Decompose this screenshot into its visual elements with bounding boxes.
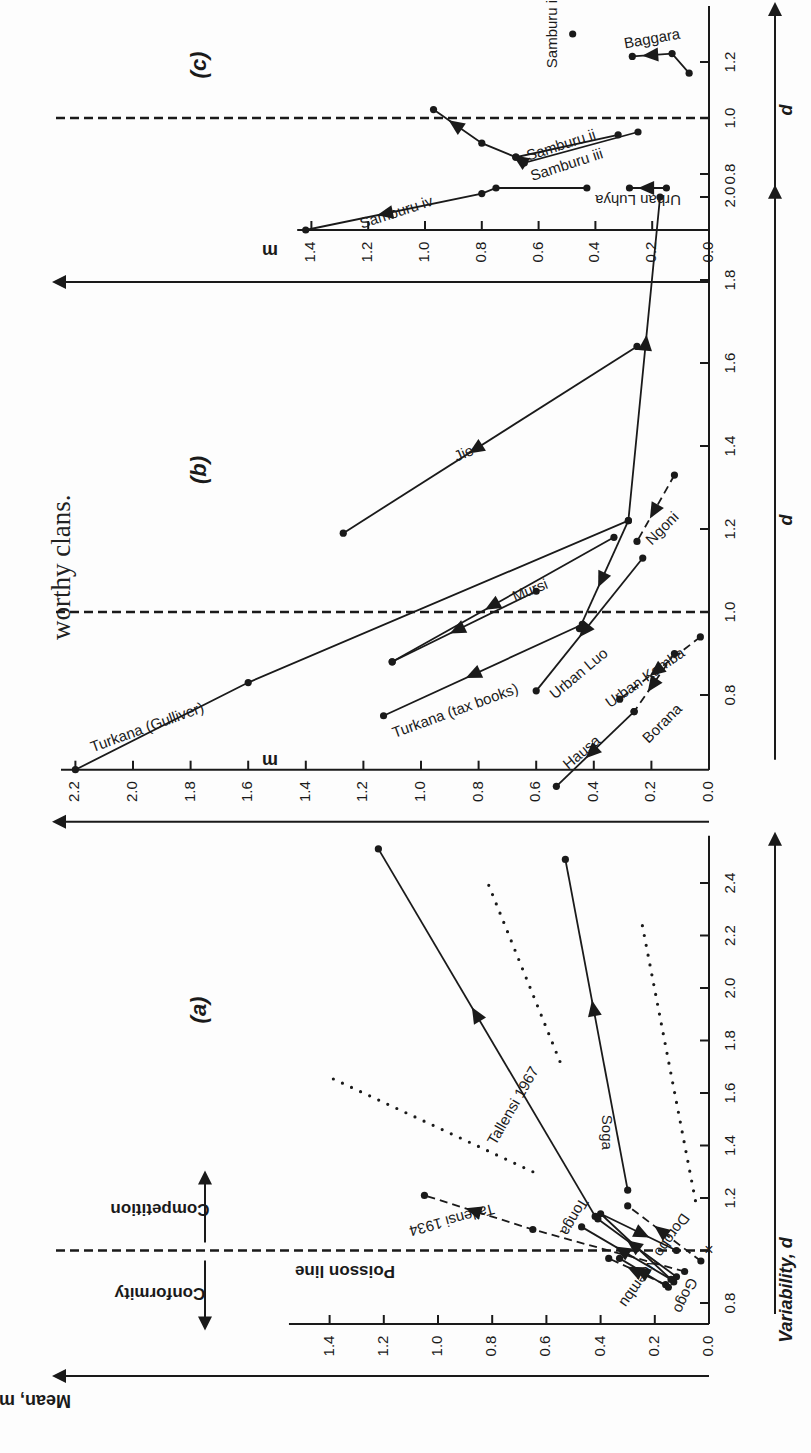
d-tick-label: 1.8 (721, 1030, 738, 1051)
m-tick-label: 0.4 (585, 242, 602, 263)
m-tick-label: 1.8 (181, 781, 198, 802)
d-tick-label: 1.4 (721, 1135, 738, 1156)
data-point (389, 658, 396, 665)
series-line (632, 54, 689, 74)
m-tick-label: 0.4 (591, 1336, 608, 1357)
series-label: Borana (639, 699, 686, 746)
data-point (625, 517, 632, 524)
data-point (633, 343, 640, 350)
direction-arrow-icon (632, 1224, 653, 1244)
data-point (375, 845, 382, 852)
direction-arrow-icon (466, 1004, 486, 1025)
data-point (671, 650, 678, 657)
m-tick-label: 0.0 (699, 781, 716, 802)
d-tick-label: 1.8 (721, 270, 738, 291)
data-point (616, 1255, 623, 1262)
data-point (478, 140, 485, 147)
panel-title: (b) (186, 456, 211, 484)
data-point (72, 766, 79, 773)
series-line (392, 591, 536, 662)
series-line (306, 188, 587, 230)
panel-title: (c) (186, 52, 211, 79)
series-label: Ngoni (642, 508, 682, 548)
series-line (378, 849, 595, 1217)
d-tick-label: 1.2 (721, 519, 738, 540)
series-label: Turkana (tax books) (390, 679, 521, 740)
series-label: Urban Luo (546, 644, 611, 702)
dotted-guide-line (487, 880, 560, 1061)
d-tick-label: 1.4 (721, 436, 738, 457)
m-tick-label: 0.2 (641, 781, 658, 802)
m-tick-label: 0.6 (529, 242, 546, 263)
data-point (478, 190, 485, 197)
data-point (512, 154, 519, 161)
data-point (553, 783, 560, 790)
direction-arrow-icon (463, 665, 483, 684)
data-point (421, 1192, 428, 1199)
series-label: Dorobo (651, 1211, 693, 1261)
data-point (633, 538, 640, 545)
d-tick-label: 2.0 (721, 978, 738, 999)
d-axis-label: Variability, d (776, 1236, 796, 1343)
d-tick-label: 1.2 (721, 1188, 738, 1209)
data-point (610, 534, 617, 541)
arrow-left-icon (52, 815, 66, 829)
m-tick-label: 1.2 (358, 242, 375, 263)
competition-label: Competition (110, 1200, 209, 1219)
arrow-up-icon (768, 832, 782, 846)
d-axis-label: d (776, 104, 796, 116)
series-label: Turkana (Gulliver) (88, 698, 206, 755)
data-point (569, 30, 576, 37)
m-tick-label: 0.0 (699, 242, 716, 263)
data-point (533, 588, 540, 595)
data-point (302, 226, 309, 233)
data-point (626, 184, 633, 191)
chart-figure: 0.81.21.41.61.82.02.22.40.00.20.40.60.81… (0, 0, 811, 1453)
data-point (492, 184, 499, 191)
m-axis-label: m (262, 241, 278, 261)
data-point (634, 128, 641, 135)
series-line (565, 859, 627, 1190)
data-point (245, 679, 252, 686)
data-point (629, 53, 636, 60)
d-tick-label: 0.8 (721, 1293, 738, 1314)
m-tick-label: 1.4 (320, 1336, 337, 1357)
d-tick-label: 1.0 (721, 602, 738, 623)
d-tick-label: 1.6 (721, 353, 738, 374)
d-tick-label: 1.6 (721, 1083, 738, 1104)
data-point (686, 70, 693, 77)
m-tick-label: 2.2 (65, 781, 82, 802)
panel-title: (a) (186, 997, 211, 1024)
data-point (624, 1187, 631, 1194)
m-tick-label: 0.8 (469, 781, 486, 802)
data-point (697, 1257, 704, 1264)
m-tick-label: 1.6 (238, 781, 255, 802)
series-label: Samburu i (543, 0, 560, 68)
m-axis-label: Mean, m (0, 1391, 71, 1411)
data-point (631, 708, 638, 715)
direction-arrow-icon (592, 570, 611, 590)
panel-a: 0.81.21.41.61.82.02.22.40.00.20.40.60.81… (0, 832, 796, 1412)
m-tick-label: 1.2 (353, 781, 370, 802)
data-point (697, 633, 704, 640)
data-point (578, 1223, 585, 1230)
data-point (521, 159, 528, 166)
d-tick-label: 0.8 (721, 685, 738, 706)
d-tick-label: 1.2 (721, 52, 738, 73)
m-tick-label: 1.4 (296, 781, 313, 802)
data-point (605, 1255, 612, 1262)
arrow-up-icon (198, 1171, 212, 1185)
m-tick-label: 0.6 (536, 1336, 553, 1357)
direction-arrow-icon (585, 999, 602, 1017)
conformity-label: Conformity (114, 1284, 205, 1303)
series-line (343, 346, 637, 533)
data-point (583, 184, 590, 191)
series-label: Tallensi 1934 (407, 1201, 496, 1240)
series-label: Samburu iv (357, 192, 435, 232)
d-tick-label: 2.2 (721, 925, 738, 946)
m-tick-label: 1.0 (415, 242, 432, 263)
arrow-left-icon (52, 1369, 66, 1383)
direction-arrow-icon (642, 48, 659, 63)
data-point (624, 1202, 631, 1209)
d-tick-label: 0.8 (721, 164, 738, 185)
